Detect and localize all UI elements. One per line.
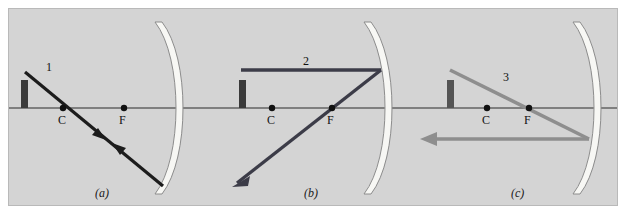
ray-label-1: 1 (46, 60, 52, 75)
focus-label-c: F (524, 113, 531, 128)
caption-b: (b) (304, 186, 318, 201)
caption-c: (c) (511, 186, 524, 201)
center-label-c: C (482, 113, 490, 128)
ray-label-3: 3 (503, 70, 509, 85)
ray-1-line (25, 72, 163, 186)
ray-diagram-canvas (0, 0, 628, 216)
focus-point-c (526, 105, 532, 111)
ray-2-reflected (237, 70, 381, 183)
ray-label-2: 2 (303, 54, 309, 69)
ray-3-incident (450, 70, 589, 139)
focus-point-b (329, 105, 335, 111)
focus-point-a (121, 105, 127, 111)
center-point-a (60, 105, 66, 111)
caption-a: (a) (95, 186, 109, 201)
focus-label-a: F (119, 113, 126, 128)
ray-2-arrowhead (232, 176, 250, 187)
center-label-a: C (58, 113, 66, 128)
optics-figure: 1 C F (a) 2 C F (b) 3 C F (c) (0, 0, 628, 216)
center-point-b (269, 105, 275, 111)
focus-label-b: F (327, 113, 334, 128)
ray-3-arrowhead (420, 132, 437, 146)
center-point-c (484, 105, 490, 111)
center-label-b: C (267, 113, 275, 128)
